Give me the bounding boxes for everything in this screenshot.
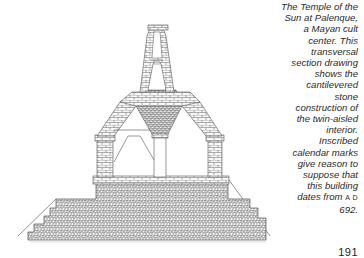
caption-line: center. This: [262, 35, 358, 46]
caption-line: construction of: [262, 102, 358, 113]
caption-line: calendar marks: [262, 147, 358, 158]
caption-line: interior.: [262, 124, 358, 135]
figure-caption: The Temple of the Sun at Palenque, a May…: [262, 1, 358, 215]
page-number: 191: [338, 246, 358, 258]
caption-line: shows the: [262, 68, 358, 79]
caption-line: this building: [262, 180, 358, 191]
caption-line: section drawing: [262, 57, 358, 68]
temple-section-drawing: [0, 0, 275, 258]
caption-line: The Temple of the: [262, 1, 358, 12]
caption-line: cantilevered: [262, 79, 358, 90]
caption-line: the twin-aisled: [262, 113, 358, 124]
caption-line: give reason to: [262, 158, 358, 169]
era-label: A D: [345, 194, 358, 201]
caption-line: dates from A D: [262, 191, 358, 203]
caption-year: 692.: [262, 204, 358, 215]
caption-text: dates from: [297, 191, 342, 202]
caption-line: suppose that: [262, 169, 358, 180]
caption-line: Sun at Palenque,: [262, 12, 358, 23]
caption-line: transversal: [262, 46, 358, 57]
caption-line: Inscribed: [262, 135, 358, 146]
caption-line: a Mayan cult: [262, 23, 358, 34]
caption-line: stone: [262, 91, 358, 102]
